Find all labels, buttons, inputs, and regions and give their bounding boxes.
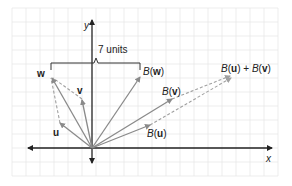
label-u: u [53,128,59,138]
dashed-lines-right [150,76,231,125]
vector-Bu [92,125,150,148]
linear-transformation-diagram [0,0,292,186]
vector-Bw [92,77,140,148]
label-w: w [37,69,45,79]
label-v: v [77,86,83,96]
label-Bw: B(w) [143,67,164,77]
label-Bv: B(v) [162,87,181,97]
label-Bu-plus-Bv: B(u) + B(v) [221,64,271,74]
grid [12,8,278,176]
y-axis-label: y [84,21,89,31]
brace-label: 7 units [98,45,127,55]
label-Bu: B(u) [147,129,166,139]
axes [28,20,272,163]
x-axis-label: x [266,154,271,164]
